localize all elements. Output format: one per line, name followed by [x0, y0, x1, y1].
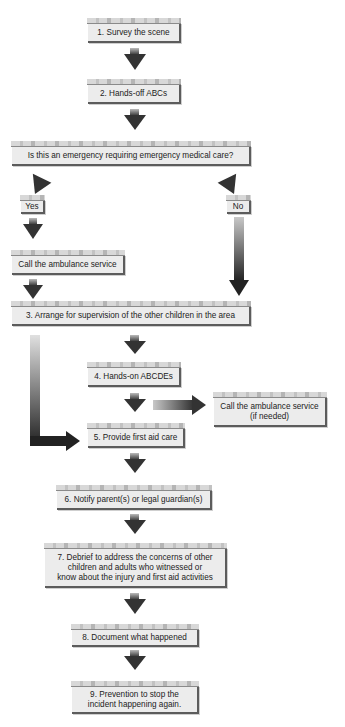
step-2-box: 2. Hands-off ABCs	[88, 84, 181, 104]
arrow-down-icon	[124, 341, 146, 354]
step-2-label: 2. Hands-off ABCs	[100, 89, 167, 99]
step-6-label: 6. Notify parent(s) or legal guardian(s)	[65, 495, 203, 505]
step-4-label: 4. Hands-on ABCDEs	[94, 372, 173, 382]
arrow-yes-icon	[25, 168, 52, 194]
step-5-label: 5. Provide first aid care	[94, 433, 178, 443]
no-label: No	[233, 202, 243, 212]
call-ambulance-label: Call the ambulance service	[18, 260, 116, 270]
arrow-down-icon	[229, 280, 249, 296]
arrow-down-icon	[124, 115, 146, 130]
emergency-question-box: Is this an emergency requiring emergency…	[12, 146, 251, 166]
arrow-right-icon	[192, 395, 206, 415]
arrow-no-icon	[218, 168, 245, 194]
call-ambulance-box: Call the ambulance service	[12, 255, 125, 275]
arrow-down-icon	[124, 54, 146, 70]
arrow-down-icon	[124, 599, 146, 614]
step-9-box: 9. Prevention to stop the incident happe…	[72, 686, 199, 714]
step-9-label-2: incident happening again.	[88, 700, 181, 710]
arrow-down-icon	[124, 656, 146, 670]
arrow-no-shaft	[234, 217, 244, 281]
arrow-l-shaft	[30, 335, 40, 445]
emergency-question-label: Is this an emergency requiring emergency…	[28, 151, 234, 161]
arrow-down-icon	[124, 399, 146, 412]
yes-label: Yes	[25, 202, 38, 212]
step-8-label: 8. Document what happened	[82, 633, 187, 643]
arrow-down-icon	[124, 520, 146, 534]
step-3-box: 3. Arrange for supervision of the other …	[12, 306, 251, 326]
arrow-right-icon	[66, 431, 80, 451]
step-7-label-1: 7. Debrief to address the concerns of ot…	[57, 553, 212, 563]
arrow-down-icon	[23, 224, 43, 239]
arrow-right-shaft	[153, 400, 193, 410]
step-5-box: 5. Provide first aid care	[88, 428, 185, 448]
no-box: No	[227, 200, 251, 214]
step-3-label: 3. Arrange for supervision of the other …	[26, 311, 235, 321]
step-4-box: 4. Hands-on ABCDEs	[88, 367, 181, 387]
arrow-l-shaft	[30, 436, 68, 446]
step-8-box: 8. Document what happened	[72, 629, 199, 647]
step-6-box: 6. Notify parent(s) or legal guardian(s)	[57, 490, 212, 510]
step-9-label-1: 9. Prevention to stop the	[90, 690, 179, 700]
arrow-down-icon	[124, 459, 146, 473]
step-1-box: 1. Survey the scene	[88, 23, 181, 43]
arrow-down-icon	[23, 285, 43, 299]
step-7-label-2: children and adults who witnessed or	[68, 563, 202, 573]
call-ambulance-if-needed-box: Call the ambulance service (if needed)	[214, 397, 327, 427]
step-7-box: 7. Debrief to address the concerns of ot…	[45, 548, 227, 588]
call-ambulance-if-needed-label-1: Call the ambulance service	[220, 402, 318, 412]
step-1-label: 1. Survey the scene	[97, 28, 169, 38]
call-ambulance-if-needed-label-2: (if needed)	[250, 412, 289, 422]
yes-box: Yes	[21, 200, 45, 214]
step-7-label-3: know about the injury and first aid acti…	[57, 573, 213, 583]
